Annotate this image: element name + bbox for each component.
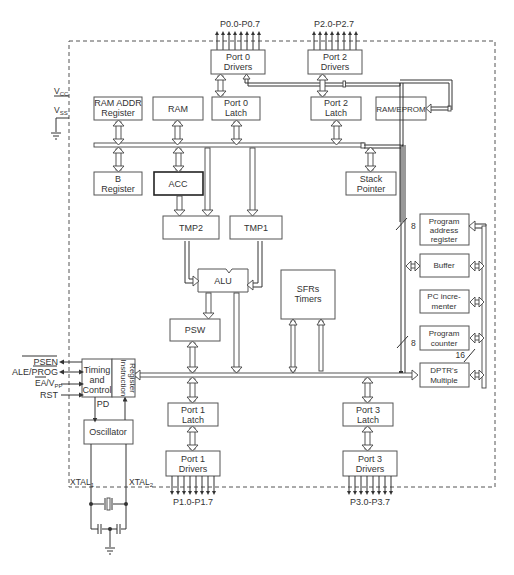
internal-data-bus-bottom [134,370,418,380]
ground-icon [105,548,115,554]
svg-text:Latch: Latch [182,415,204,425]
ground-icon [51,133,61,139]
svg-text:TMP2: TMP2 [179,223,203,233]
psen-pin: PSEN [22,356,82,367]
svg-text:Drivers: Drivers [179,464,208,474]
svg-text:TMP1: TMP1 [244,223,268,233]
b-register-block: B Register [94,172,142,195]
svg-text:Buffer: Buffer [433,261,455,270]
port1-drivers-block: Port 1 Drivers [166,451,220,476]
internal-data-bus-top [94,143,364,147]
port1-pins: P1.0-P1.7 [170,476,216,507]
buffer-block: Buffer [420,254,469,277]
svg-text:RAM/EPROM: RAM/EPROM [376,105,426,114]
connector-acc-tmp2 [174,196,185,216]
connector-tmp2-alu [185,241,199,286]
pd-label: PD [97,399,110,409]
svg-text:EA/VPP: EA/VPP [35,378,62,389]
stack-pointer-block: Stack Pointer [346,172,396,195]
svg-text:ACC: ACC [168,179,188,189]
address-bus-upper-loop [243,74,452,222]
connector-bus-stack-pointer [365,147,376,172]
svg-text:RAM ADDR: RAM ADDR [94,98,142,108]
svg-text:Control: Control [82,385,111,395]
port3-drivers-block: Port 3 Drivers [343,451,397,476]
svg-text:Register: Register [101,184,135,194]
connector-buffer-bus-left [406,261,420,271]
svg-text:ALU: ALU [214,276,232,286]
port2-latch-block: Port 2 Latch [311,97,361,120]
ale-prog-pin: ALE/PROG [12,366,84,377]
svg-text:RAM: RAM [168,104,188,114]
crystal-circuit: XTAL1 XTAL2 [70,444,154,554]
ram-addr-register-block: RAM ADDR Register [94,97,142,120]
svg-text:Multiple: Multiple [430,376,458,385]
svg-text:Latch: Latch [225,108,247,118]
svg-text:DPTR's: DPTR's [430,366,457,375]
svg-text:Oscillator: Oscillator [89,427,127,437]
connector-ram-addr-bus [113,120,124,145]
svg-text:8: 8 [411,221,416,231]
port0-drivers-block: Port 0 Drivers [211,50,265,74]
program-counter-block: Program counter [420,326,469,350]
connector-bus-port1-latch [187,377,198,403]
port2-pin-label: P2.0-P2.7 [314,19,354,29]
sfrs-timers-block: SFRs Timers [281,270,335,319]
connector-ram-bus [172,120,183,145]
connector-bus-b-register [113,147,124,172]
svg-text:menter: menter [432,302,457,311]
microcontroller-block-diagram: P0.0-P0.7 P2.0-P2.7 Port 0 Drivers [0,0,514,575]
svg-text:VCC: VCC [54,86,69,97]
connector-port2-latch-bus [331,120,342,145]
oscillator-block: Oscillator [84,420,133,444]
connector-alu-bus [231,293,242,373]
port1-pin-label: P1.0-P1.7 [173,497,213,507]
svg-text:counter: counter [431,339,458,348]
svg-text:Port 2: Port 2 [324,98,348,108]
svg-text:Register: Register [128,363,137,393]
svg-text:Port 1: Port 1 [181,454,205,464]
port0-pin-label: P0.0-P0.7 [220,19,260,29]
svg-text:Port 0: Port 0 [224,98,248,108]
bus-width-8-lower: 8 [397,336,416,348]
connector-sfrs-bus [289,319,325,373]
svg-text:Port 1: Port 1 [181,405,205,415]
port1-latch-block: Port 1 Latch [168,403,218,426]
connector-port0-drivers-latch [215,74,226,97]
svg-text:16: 16 [456,350,466,360]
port2-drivers-block: Port 2 Drivers [308,50,362,74]
rst-pin: RST [40,390,84,400]
connector-psw-bus [187,341,198,373]
svg-text:PSW: PSW [185,325,206,335]
svg-text:XTAL2: XTAL2 [129,477,154,488]
svg-text:Port 3: Port 3 [358,454,382,464]
svg-text:VSS: VSS [54,105,68,116]
dptr-multiple-block: DPTR's Multiple [420,363,469,387]
port3-latch-block: Port 3 Latch [343,403,393,426]
svg-text:Port 2: Port 2 [323,52,347,62]
ea-vpp-pin: EA/VPP [35,377,84,389]
svg-text:Pointer: Pointer [357,184,386,194]
psw-block: PSW [170,319,220,341]
svg-text:SFRs: SFRs [297,284,320,294]
connector-port1-latch-drivers [187,426,198,451]
svg-text:Program: Program [429,217,460,226]
pc-incrementer-block: PC incre- menter [420,290,469,313]
bus-width-16: 16 [456,349,475,362]
svg-text:Program: Program [429,329,460,338]
svg-text:8: 8 [411,338,416,348]
svg-text:address: address [430,226,458,235]
connector-alu-psw [203,293,214,319]
svg-text:Register: Register [101,108,135,118]
connector-bus-acc [173,147,184,172]
port0-latch-block: Port 0 Latch [212,97,260,120]
vcc-pin: VCC [54,86,69,97]
svg-text:Instruction: Instruction [119,360,128,397]
instruction-register-block: Instruction Register [112,359,137,397]
alu-block: ALU [198,269,248,292]
svg-text:Drivers: Drivers [356,464,385,474]
port0-pins: P0.0-P0.7 [215,19,261,50]
svg-text:Port 0: Port 0 [226,52,250,62]
svg-text:B: B [115,174,121,184]
connector-bus-tmp1 [247,148,258,216]
